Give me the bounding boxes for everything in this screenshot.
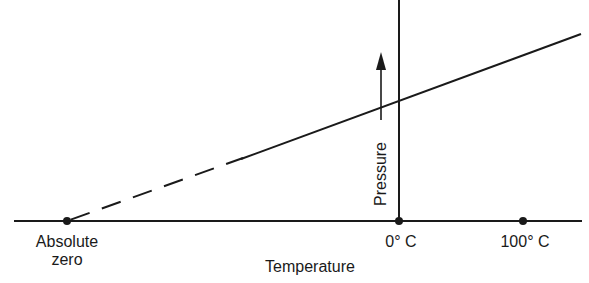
pressure-arrow-head <box>376 52 386 70</box>
extrapolation-dashed-line <box>67 158 243 221</box>
pressure-temperature-line <box>241 34 581 159</box>
hundred-celsius-point <box>519 217 527 225</box>
pressure-axis-label: Pressure <box>372 142 390 206</box>
zero-celsius-label: 0° C <box>376 233 426 251</box>
temperature-axis-label: Temperature <box>250 258 370 276</box>
hundred-celsius-label: 100° C <box>489 233 561 251</box>
zero-celsius-point <box>395 217 403 225</box>
absolute-zero-label-line2: zero <box>18 251 116 269</box>
absolute-zero-label-line1: Absolute <box>18 233 116 251</box>
absolute-zero-label: Absolute zero <box>18 233 116 269</box>
absolute-zero-point <box>63 217 71 225</box>
